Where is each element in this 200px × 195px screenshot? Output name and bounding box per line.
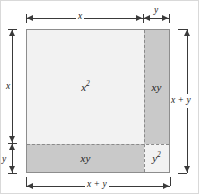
left-dim-arrow-y-top xyxy=(9,144,15,150)
dim-label-top-y: y xyxy=(152,6,160,16)
region-label-y-squared: y2 xyxy=(152,153,161,164)
geometric-identity-figure: x y x y x + y x + y x2 xy xy xyxy=(0,0,200,195)
bottom-dim-arrow-left xyxy=(27,183,33,189)
region-y-squared: y2 xyxy=(144,144,169,172)
top-dim-line-x xyxy=(26,18,143,19)
vertical-dashed-divider xyxy=(144,30,145,172)
region-xy-right: xy xyxy=(144,30,169,144)
bottom-dim-arrow-right xyxy=(163,183,169,189)
left-dim-arrow-x-bottom xyxy=(9,136,15,142)
region-xy-bottom: xy xyxy=(27,144,144,172)
top-dim-arrow-y-left xyxy=(144,15,150,21)
region-label-x-squared: x2 xyxy=(81,82,90,93)
dim-label-left-x: x xyxy=(6,80,10,94)
right-dim-arrow-top xyxy=(184,30,190,36)
bottom-dim-tick-right xyxy=(170,177,171,186)
left-dim-tick-bottom xyxy=(8,173,17,174)
top-dim-tick-right xyxy=(169,14,170,23)
region-x-squared: x2 xyxy=(27,30,144,144)
region-label-xy-bottom: xy xyxy=(81,153,91,164)
horizontal-dashed-divider xyxy=(27,144,169,145)
dim-label-left-y: y xyxy=(2,153,6,167)
region-label-xy-right: xy xyxy=(152,82,162,93)
dim-label-right-total: x + y xyxy=(171,94,191,108)
right-dim-arrow-bottom xyxy=(184,166,190,172)
left-dim-line-x xyxy=(12,29,13,143)
left-dim-arrow-y-bottom xyxy=(9,166,15,172)
top-dim-arrow-x-left xyxy=(27,15,33,21)
top-dim-arrow-x-right xyxy=(136,15,142,21)
left-dim-arrow-x-top xyxy=(9,30,15,36)
outer-square: x2 xy xy y2 xyxy=(26,29,170,173)
dim-label-top-x: x xyxy=(76,12,84,22)
dim-label-bottom-total: x + y xyxy=(85,180,109,190)
top-dim-arrow-y-right xyxy=(162,15,168,21)
right-dim-tick-bottom xyxy=(178,173,187,174)
